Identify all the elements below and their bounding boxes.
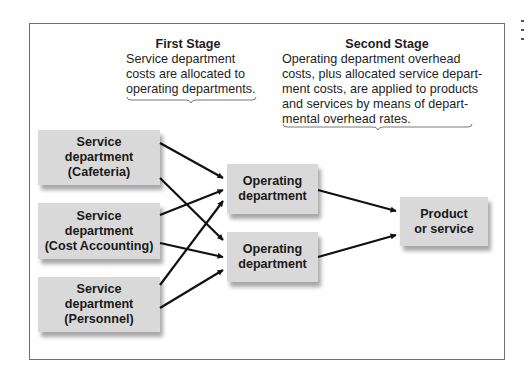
second-stage-caption: Second Stage Operating department overhe…	[282, 37, 492, 127]
box-line: department	[65, 297, 134, 312]
first-stage-line: Service department	[126, 52, 261, 67]
box-line: department	[65, 224, 134, 239]
operating-department-2: Operating department	[227, 232, 318, 282]
box-line: (Cafeteria)	[68, 165, 130, 180]
first-stage-title: First Stage	[126, 37, 250, 52]
box-line: Service	[77, 209, 122, 224]
box-line: Service	[77, 135, 122, 150]
edge-artifact	[521, 20, 529, 50]
first-stage-line: costs are allocated to	[126, 67, 261, 82]
product-or-service: Product or service	[400, 197, 488, 246]
operating-department-1: Operating department	[227, 164, 318, 214]
box-line: Operating	[243, 242, 302, 257]
second-stage-title: Second Stage	[282, 37, 492, 52]
box-line: (Personnel)	[64, 312, 133, 327]
box-line: department	[238, 257, 307, 272]
box-line: department	[238, 189, 307, 204]
box-line: Product	[420, 207, 468, 222]
first-stage-caption: First Stage Service department costs are…	[126, 37, 261, 97]
box-line: or service	[414, 222, 474, 237]
second-stage-line: ment costs, are applied to products	[282, 82, 492, 97]
box-line: Operating	[243, 174, 302, 189]
first-stage-line: operating departments.	[126, 82, 261, 97]
box-line: (Cost Accounting)	[45, 239, 154, 254]
second-stage-line: Operating department overhead	[282, 52, 492, 67]
service-department-cost-accounting: Service department (Cost Accounting)	[38, 203, 160, 259]
box-line: department	[65, 150, 134, 165]
service-department-cafeteria: Service department (Cafeteria)	[38, 130, 160, 185]
service-department-personnel: Service department (Personnel)	[38, 277, 160, 332]
second-stage-line: and services by means of depart-	[282, 97, 492, 112]
box-line: Service	[77, 282, 122, 297]
second-stage-line: mental overhead rates.	[282, 112, 492, 127]
second-stage-line: costs, plus allocated service depart-	[282, 67, 492, 82]
